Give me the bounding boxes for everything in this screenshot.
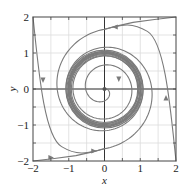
y-tick-label: 0: [24, 83, 30, 95]
arrowhead-icon: [41, 78, 46, 84]
equilibrium-point: [103, 87, 107, 91]
y-tick-label: −1: [17, 119, 29, 131]
y-tick-label: −2: [17, 155, 29, 167]
x-tick-label: 0: [102, 162, 108, 174]
arrowhead-icon: [163, 95, 168, 101]
x-axis-label: x: [101, 174, 107, 186]
x-tick-labels: −2−1012: [27, 162, 179, 174]
arrowhead-icon: [112, 25, 118, 30]
phase-portrait-chart: −2−1012 −2−1012 x y: [0, 0, 191, 190]
x-tick-label: 1: [138, 162, 144, 174]
y-tick-label: 1: [24, 47, 30, 59]
y-tick-label: 2: [24, 11, 30, 23]
arrowhead-icon: [116, 76, 121, 82]
x-tick-label: 2: [173, 162, 179, 174]
x-tick-label: −1: [63, 162, 75, 174]
y-tick-labels: −2−1012: [17, 11, 29, 167]
y-axis-label: y: [6, 86, 18, 92]
arrowhead-icon: [91, 148, 97, 153]
